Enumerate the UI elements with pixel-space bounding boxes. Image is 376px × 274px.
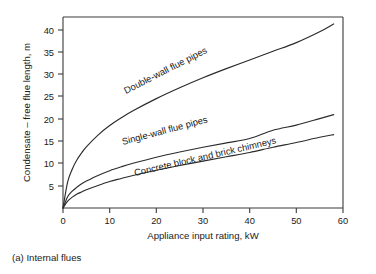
- x-tick-label-10: 10: [105, 216, 115, 226]
- x-tick-label-60: 60: [338, 216, 348, 226]
- curve-label-double-wall: Double-wall flue pipes: [122, 44, 209, 96]
- figure-internal-flues: 40 35 30 25 20 15 10 5 0 10 20 30 40 50: [0, 0, 376, 274]
- y-tick-label-25: 25: [44, 92, 54, 102]
- y-tick-label-30: 30: [44, 70, 54, 80]
- x-tick-label-20: 20: [151, 216, 161, 226]
- x-axis-title: Appliance input rating, kW: [147, 230, 259, 241]
- curve-label-concrete-block: Concrete block and brick chimneys: [133, 134, 277, 177]
- y-tick-label-35: 35: [44, 48, 54, 58]
- line-chart: 40 35 30 25 20 15 10 5 0 10 20 30 40 50: [0, 0, 376, 274]
- x-tick-label-50: 50: [291, 216, 301, 226]
- y-axis-ticks: [58, 30, 63, 186]
- figure-caption: (a) Internal flues: [12, 252, 81, 263]
- chart-annotations: Double-wall flue pipes Single-wall flue …: [121, 44, 278, 178]
- y-axis-tick-labels: 40 35 30 25 20 15 10 5: [44, 26, 54, 192]
- series-concrete-block-and-brick-chimneys: [63, 135, 334, 208]
- y-tick-label-10: 10: [44, 159, 54, 169]
- y-tick-label-40: 40: [44, 26, 54, 36]
- x-tick-label-40: 40: [245, 216, 255, 226]
- y-axis-title: Condensate – free flue length, m: [21, 43, 32, 182]
- y-tick-label-15: 15: [44, 137, 54, 147]
- y-tick-label-20: 20: [44, 115, 54, 125]
- x-tick-label-0: 0: [60, 216, 65, 226]
- x-axis-ticks: [63, 208, 343, 213]
- x-axis-tick-labels: 0 10 20 30 40 50 60: [60, 216, 348, 226]
- x-tick-label-30: 30: [198, 216, 208, 226]
- curve-label-single-wall: Single-wall flue pipes: [121, 113, 209, 147]
- y-tick-label-5: 5: [49, 182, 54, 192]
